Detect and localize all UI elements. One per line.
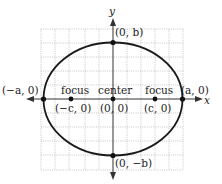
focus-left-coord: (−c, 0) xyxy=(55,102,91,114)
y-axis-label: y xyxy=(108,5,116,17)
center-point xyxy=(111,97,116,102)
center-coord: (0, 0) xyxy=(100,102,128,114)
focus-right-name: focus xyxy=(145,84,173,96)
left-vertex-label: (−a, 0) xyxy=(2,84,39,96)
arrow-down-icon xyxy=(110,172,116,180)
focus-right-point xyxy=(153,97,158,102)
top-vertex-label: (0, b) xyxy=(115,26,143,38)
covertex-top-point xyxy=(110,40,115,45)
ellipse-diagram: y x (0, b) (0, −b) (−a, 0) (a, 0) focus … xyxy=(0,0,222,184)
focus-left-name: focus xyxy=(61,84,89,96)
center-name: center xyxy=(98,84,133,96)
arrow-left-icon xyxy=(26,96,34,102)
arrow-right-icon xyxy=(195,96,203,102)
focus-right-coord: (c, 0) xyxy=(144,102,171,114)
arrow-up-icon xyxy=(110,18,116,26)
vertex-right-point xyxy=(180,96,185,101)
vertex-left-point xyxy=(41,96,46,101)
focus-left-point xyxy=(69,97,74,102)
bottom-vertex-label: (0, −b) xyxy=(115,157,152,169)
right-vertex-label: (a, 0) xyxy=(181,84,209,96)
